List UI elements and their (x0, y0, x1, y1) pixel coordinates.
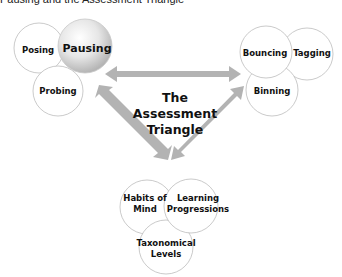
label-probing: Probing (39, 86, 76, 96)
label-habits-of-mind-2: Mind (133, 204, 157, 214)
label-pausing: Pausing (62, 42, 111, 55)
cluster-learning: Habits of Mind Learning Progressions Tax… (120, 179, 229, 274)
arrow-top-horizontal (105, 66, 241, 82)
label-taxonomical-levels-1: Taxonomical (136, 238, 195, 248)
center-label-line-1: The (162, 90, 188, 105)
assessment-triangle-diagram: Posing Pausing Probing Bouncing Tagging … (0, 0, 342, 277)
label-bouncing: Bouncing (243, 48, 288, 58)
label-taxonomical-levels-2: Levels (151, 249, 181, 259)
label-habits-of-mind-1: Habits of (123, 193, 167, 203)
label-binning: Binning (254, 86, 291, 96)
cluster-discussion: Bouncing Tagging Binning (240, 26, 333, 116)
center-label-line-2: Assessment (133, 106, 217, 121)
label-posing: Posing (22, 45, 54, 55)
label-learning-progressions-1: Learning (177, 193, 219, 203)
label-tagging: Tagging (293, 48, 331, 58)
center-label-line-3: Triangle (147, 122, 204, 137)
label-learning-progressions-2: Progressions (167, 204, 229, 214)
cluster-questioning: Posing Pausing Probing (14, 19, 112, 116)
